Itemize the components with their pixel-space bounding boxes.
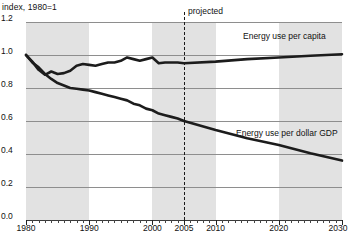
x-tick-1994: [114, 220, 115, 223]
ytick-label-0-2: 0.2: [1, 179, 13, 188]
x-tick-1995: [121, 220, 122, 223]
projected-label: projected: [188, 6, 223, 16]
x-tick-2003: [171, 220, 172, 223]
x-tick-2002: [165, 220, 166, 223]
x-tick-1997: [133, 220, 134, 223]
projected-divider-2005: [184, 12, 185, 220]
x-tick-2024: [304, 220, 305, 223]
x-tick-2008: [203, 220, 204, 223]
ytick-label-0-4: 0.4: [1, 146, 13, 155]
x-tick-2017: [260, 220, 261, 223]
x-tick-2012: [228, 220, 229, 223]
x-tick-1993: [108, 220, 109, 223]
x-tick-2014: [241, 220, 242, 223]
footer-cropped-text: [0, 239, 350, 245]
x-tick-2018: [266, 220, 267, 223]
xtick-label-2020: 2020: [269, 224, 288, 233]
x-tick-1996: [127, 220, 128, 223]
xtick-label-1990: 1990: [80, 224, 99, 233]
x-tick-2025: [310, 220, 311, 223]
ytick-label-0-6: 0.6: [1, 113, 13, 122]
xtick-label-2030: 2030: [329, 224, 348, 233]
x-tick-1984: [51, 220, 52, 223]
chart-axis-title: index, 1980=1: [2, 2, 57, 12]
series-label-energy-per-capita: Energy use per capita: [243, 31, 326, 41]
x-tick-2013: [235, 220, 236, 223]
x-tick-1983: [45, 220, 46, 223]
ytick-label-0-8: 0.8: [1, 80, 13, 89]
x-tick-2023: [298, 220, 299, 223]
xtick-label-2010: 2010: [206, 224, 225, 233]
x-tick-1988: [77, 220, 78, 223]
x-tick-1998: [140, 220, 141, 223]
chart-figure: index, 1980=1 1.2 1.0 0.8 0.6 0.4 0.2 0.…: [0, 0, 350, 247]
x-tick-2015: [247, 220, 248, 223]
xtick-label-1980: 1980: [17, 224, 36, 233]
x-tick-2016: [254, 220, 255, 223]
x-tick-1985: [58, 220, 59, 223]
x-tick-1982: [39, 220, 40, 223]
x-tick-1992: [102, 220, 103, 223]
x-tick-1986: [64, 220, 65, 223]
xtick-label-2005: 2005: [175, 224, 194, 233]
series-label-energy-per-dollar-gdp: Energy use per dollar GDP: [236, 128, 338, 138]
ytick-label-0-0: 0.0: [1, 212, 13, 221]
x-tick-2022: [291, 220, 292, 223]
ytick-label-1-0: 1.0: [1, 47, 13, 56]
xtick-label-2000: 2000: [143, 224, 162, 233]
ytick-label-1-2: 1.2: [1, 14, 13, 23]
x-tick-2026: [317, 220, 318, 223]
x-tick-1987: [70, 220, 71, 223]
plot-area: [26, 22, 342, 220]
x-tick-2027: [323, 220, 324, 223]
x-tick-2007: [197, 220, 198, 223]
